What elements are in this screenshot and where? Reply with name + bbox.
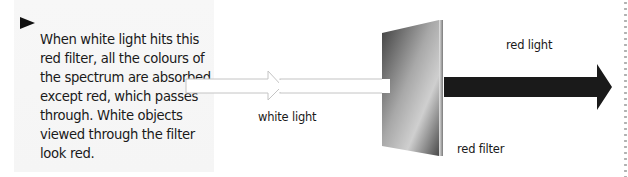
red-light-arrow (444, 64, 612, 110)
red-filter-plate (382, 20, 443, 156)
red-light-label: red light (506, 38, 552, 52)
red-filter-label: red filter (457, 142, 504, 156)
white-light-arrow (186, 71, 390, 100)
light-filter-diagram (0, 0, 628, 177)
white-beam-entry (382, 79, 390, 93)
dotted-divider (624, 0, 627, 177)
white-light-label: white light (258, 110, 316, 124)
